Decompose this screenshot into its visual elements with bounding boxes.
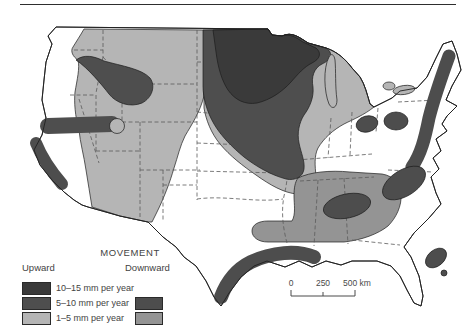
scale-bar-line — [291, 290, 355, 296]
scale-label-250: 250 — [316, 278, 330, 288]
legend-upward-label: Upward — [22, 262, 55, 273]
swatch-downward-5-10 — [135, 297, 163, 310]
legend-row-label: 1–5 mm per year — [56, 313, 124, 323]
swatch-upward-5-10 — [22, 297, 51, 310]
region-ohio-oval-east-down-5-10 — [384, 112, 408, 130]
legend-title: MOVEMENT — [90, 247, 170, 258]
swatch-upward-10-15 — [22, 282, 51, 295]
legend-row-5-10: 5–10 mm per year — [0, 297, 200, 310]
scale-bar: 0 250 500 km — [286, 274, 386, 302]
legend-row-1-5: 1–5 mm per year — [0, 312, 200, 325]
legend-row-label: 5–10 mm per year — [56, 298, 129, 308]
legend-row-label: 10–15 mm per year — [56, 283, 134, 293]
swatch-downward-1-5 — [135, 312, 163, 325]
scale-label-0: 0 — [289, 278, 294, 288]
region-florida-small-patch — [441, 270, 447, 276]
legend-row-10-15: 10–15 mm per year — [0, 282, 200, 295]
figure-vertical-crustal-movement-map: MOVEMENT Upward Downward 10–15 mm per ye… — [0, 0, 476, 332]
legend-downward-label: Downward — [125, 262, 170, 273]
region-florida-down-5-10 — [422, 244, 451, 272]
adirondack-patch — [383, 82, 395, 90]
swatch-upward-1-5 — [22, 312, 51, 325]
region-utah-light-patch — [110, 119, 125, 134]
scale-label-500km: 500 km — [343, 278, 371, 288]
region-nevada-band-up-5-10 — [48, 124, 112, 126]
